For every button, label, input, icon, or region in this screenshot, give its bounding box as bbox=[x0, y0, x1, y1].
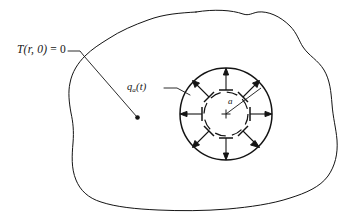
radius-label: a bbox=[228, 97, 233, 106]
flux-arrow-270 bbox=[219, 138, 233, 160]
surface-flux-label: qa(t) bbox=[127, 82, 146, 93]
initial-condition-label: T(r, 0) = 0 bbox=[17, 44, 66, 56]
figure-root: T(r, 0) = 0 qa(t) a bbox=[0, 0, 364, 222]
flux-args: (t) bbox=[136, 81, 146, 92]
initial-condition-value: 0 bbox=[60, 43, 66, 55]
initial-condition-symbol: T bbox=[17, 43, 24, 55]
flux-arrow-0 bbox=[250, 107, 272, 121]
flux-arrow-90 bbox=[219, 68, 233, 90]
diagram-canvas bbox=[0, 0, 364, 222]
initial-condition-args: (r, 0) bbox=[24, 43, 48, 55]
leader-dot-icon bbox=[135, 115, 140, 120]
initial-condition-equals: = bbox=[47, 43, 60, 55]
flux-arrow-315 bbox=[238, 126, 260, 148]
flux-subscript: a bbox=[132, 86, 136, 94]
flux-arrow-180 bbox=[180, 107, 202, 121]
flux-arrow-225 bbox=[193, 126, 215, 148]
irregular-body-outline bbox=[69, 10, 337, 210]
flux-arrow-135 bbox=[193, 81, 215, 103]
